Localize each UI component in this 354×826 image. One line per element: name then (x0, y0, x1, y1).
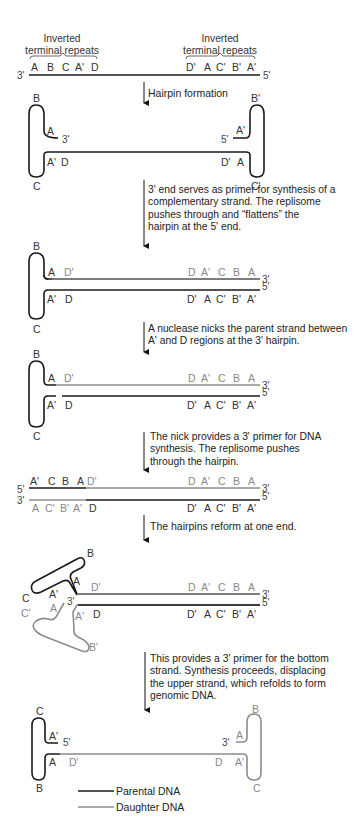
legend-parental-label: Parental DNA (116, 785, 180, 797)
seq-label: C (218, 475, 226, 487)
hairpin-label: C (33, 430, 41, 442)
seq-label: B (47, 61, 54, 73)
seq-label: B' (232, 608, 241, 620)
seq-label: B' (232, 399, 241, 411)
seq-label: D (215, 756, 223, 768)
seq-label: B (62, 475, 69, 487)
hairpin-label: C (253, 782, 261, 794)
hairpin-label: B (87, 547, 94, 559)
end-label: 5' (262, 491, 270, 502)
caption-line: complementary strand. The replisome (148, 196, 335, 208)
end-label: 5' (221, 134, 229, 145)
seq-label: C (218, 581, 226, 593)
seq-label: C' (216, 61, 226, 73)
seq-label: B' (232, 293, 241, 305)
caption-hairpins-reform: The hairpins reform at one end. (150, 520, 297, 532)
end-label: 3' (62, 134, 70, 145)
seq-label: C (218, 266, 226, 278)
seq-label: D' (87, 475, 97, 487)
caption-line: A' and D regions at the 3' hairpin. (148, 335, 347, 347)
caption-line: The nick provides a 3' primer for DNA (150, 431, 321, 443)
seq-label: A (49, 756, 56, 768)
seq-label: A' (49, 730, 58, 742)
seq-label: A (77, 475, 84, 487)
seq-label: A' (47, 399, 56, 411)
legend: Parental DNA Daughter DNA (78, 785, 184, 813)
seq-label: B' (232, 61, 241, 73)
seq-label: A (237, 156, 244, 168)
caption-line: through the hairpin. (150, 456, 321, 468)
caption-nuclease-nick: A nuclease nicks the parent strand betwe… (148, 323, 347, 348)
hairpin-label: C (36, 705, 44, 717)
seq-label: A' (47, 156, 56, 168)
nicked-hairpin (29, 361, 260, 427)
seq-label: A (31, 61, 38, 73)
caption-line: hairpin at the 5' end. (148, 221, 335, 233)
seq-label: D (65, 293, 73, 305)
seq-label: A (204, 502, 211, 514)
seq-label: A (73, 575, 80, 587)
seq-label: D' (187, 293, 197, 305)
end-label: 3' (222, 737, 230, 748)
seq-label: D (89, 502, 97, 514)
seq-label: A' (73, 502, 82, 514)
seq-label: D (188, 266, 196, 278)
seq-label: D (93, 608, 101, 620)
flattened-hairpin (29, 253, 260, 319)
caption-line: synthesis. The replisome pushes (150, 443, 321, 455)
hairpin-label: B (33, 240, 40, 252)
seq-label: A' (247, 293, 256, 305)
seq-label: D' (187, 608, 197, 620)
end-label: 3' (17, 70, 25, 81)
caption-line: 3' end serves as primer for synthesis of… (148, 184, 335, 196)
seq-label: C' (216, 293, 226, 305)
seq-label: D' (187, 502, 197, 514)
seq-label: A' (49, 588, 58, 600)
seq-label: A' (75, 610, 84, 622)
seq-label: C (48, 475, 56, 487)
hairpin-label: C (33, 323, 41, 335)
seq-label: D' (186, 61, 196, 73)
caption-line: pushes through and “flattens” the (148, 209, 335, 221)
seq-label: B (233, 266, 240, 278)
seq-label: C' (216, 399, 226, 411)
seq-label: A (248, 475, 255, 487)
caption-nick-primer: The nick provides a 3' primer for DNA sy… (150, 431, 321, 468)
seq-label: D' (69, 756, 79, 768)
seq-label: D' (64, 372, 74, 384)
seq-label: A (32, 502, 39, 514)
seq-label: B' (232, 502, 241, 514)
seq-label: A' (236, 124, 245, 136)
caption-line: the upper strand, which refolds to form (150, 678, 329, 690)
seq-label: C' (45, 502, 55, 514)
hairpin-label: B (252, 703, 259, 715)
legend-daughter-label: Daughter DNA (116, 801, 184, 813)
end-label: 5' (262, 597, 270, 608)
seq-label: D (61, 156, 69, 168)
seq-label: A (204, 293, 211, 305)
seq-label: A' (235, 756, 244, 768)
caption-primer-synthesis: 3' end serves as primer for synthesis of… (148, 184, 335, 233)
end-label: 5' (262, 387, 270, 398)
seq-label: D' (64, 266, 74, 278)
seq-label: A (248, 372, 255, 384)
seq-label: D' (91, 581, 101, 593)
seq-label: D' (221, 156, 231, 168)
seq-label: A' (30, 475, 39, 487)
hairpin-label: B (33, 348, 40, 360)
seq-label: A (248, 266, 255, 278)
caption-line: A nuclease nicks the parent strand betwe… (148, 323, 347, 335)
seq-label: A (47, 125, 54, 137)
end-label: 5' (263, 70, 271, 81)
seq-label: A (204, 608, 211, 620)
end-label: 5' (262, 281, 270, 292)
hairpin-label: B (36, 782, 43, 794)
seq-label: A (236, 729, 243, 741)
seq-label: D (188, 581, 196, 593)
end-label: 5' (17, 484, 25, 495)
seq-label: A (204, 399, 211, 411)
seq-label: A' (247, 502, 256, 514)
seq-label: B (233, 372, 240, 384)
hairpin-label: C' (21, 607, 31, 619)
seq-label: D' (187, 399, 197, 411)
